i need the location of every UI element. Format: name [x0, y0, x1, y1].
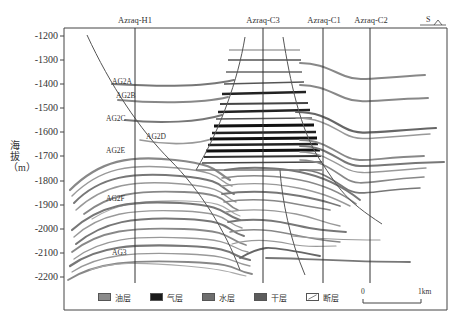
- oil-layer-swatch-icon: [98, 293, 111, 301]
- y-tick-label: -1400: [14, 79, 58, 89]
- cross-section-canvas: [0, 0, 464, 324]
- legend-item-dry: 干层: [254, 292, 287, 303]
- legend-label: 断层: [323, 292, 339, 303]
- legend-item-water: 水层: [202, 292, 235, 303]
- y-axis-title: 海拔（m）: [8, 140, 22, 173]
- dry-layer-swatch-icon: [254, 293, 267, 301]
- y-tick-label: -1200: [14, 31, 58, 41]
- strata-label-ag2b: AG2B: [116, 91, 136, 100]
- strata-label-ag2d: AG2D: [146, 132, 166, 141]
- y-axis-ticks: [60, 36, 64, 277]
- strata-left-block: [68, 158, 252, 280]
- strata-label-ag2f: AG2F: [106, 194, 125, 203]
- gas-layer-swatch-icon: [150, 293, 163, 301]
- legend-item-fault: 断层: [306, 292, 339, 303]
- legend-label: 油层: [115, 292, 131, 303]
- scale-end-label: 1km: [418, 287, 431, 296]
- direction-label: S: [426, 15, 430, 24]
- y-tick-label: -2200: [14, 272, 58, 282]
- fault-swatch-icon: [306, 293, 319, 301]
- legend-item-oil: 油层: [98, 292, 131, 303]
- legend-label: 水层: [219, 292, 235, 303]
- y-tick-label: -1900: [14, 200, 58, 210]
- well-label-azraq-h1: Azraq-H1: [118, 15, 152, 25]
- scale-start-label: 0: [361, 287, 365, 296]
- water-layer-swatch-icon: [202, 293, 215, 301]
- y-tick-label: -2100: [14, 248, 58, 258]
- direction-mark: [420, 20, 446, 25]
- legend-label: 气层: [167, 292, 183, 303]
- strata-label-ag2c: AG2C: [106, 114, 126, 123]
- strata-label-ag2e: AG2E: [106, 146, 125, 155]
- y-tick-label: -1600: [14, 127, 58, 137]
- y-tick-label: -1300: [14, 55, 58, 65]
- well-label-azraq-c3: Azraq-C3: [246, 15, 280, 25]
- strata-label-ag2a: AG2A: [112, 77, 132, 86]
- strata-lower-mid-block: [222, 168, 410, 262]
- well-label-azraq-c1: Azraq-C1: [307, 15, 341, 25]
- legend: 油层 气层 水层 干层 断层: [98, 290, 358, 304]
- strata-label-ag3: AG3: [112, 248, 127, 257]
- y-tick-label: -1500: [14, 103, 58, 113]
- legend-label: 干层: [271, 292, 287, 303]
- well-label-azraq-c2: Azraq-C2: [354, 15, 388, 25]
- y-tick-label: -1800: [14, 176, 58, 186]
- legend-item-gas: 气层: [150, 292, 183, 303]
- y-tick-label: -2000: [14, 224, 58, 234]
- scale-bar: 0 1km: [360, 287, 422, 305]
- cross-section-figure: -1200 -1300 -1400 -1500 -1600 -1700 -180…: [0, 0, 464, 324]
